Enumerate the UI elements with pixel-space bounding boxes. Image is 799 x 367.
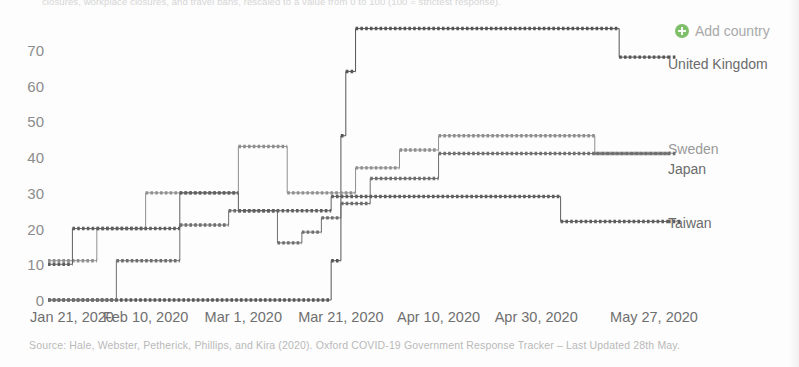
y-axis-tick-label: 70: [27, 43, 44, 58]
y-axis-tick-label: 0: [36, 293, 44, 308]
x-axis: Jan 21, 2020Feb 10, 2020Mar 1, 2020Mar 2…: [0, 309, 799, 333]
legend-label: United Kingdom: [668, 57, 768, 71]
legend-item-japan[interactable]: Japan: [668, 162, 706, 176]
line-chart-svg: [48, 14, 668, 306]
legend-item-united-kingdom[interactable]: United Kingdom: [668, 57, 768, 71]
add-country-button[interactable]: Add country: [675, 24, 770, 38]
series-line: [48, 154, 668, 300]
chart-screenshot: closures, workplace closures, and travel…: [0, 0, 799, 367]
add-country-label: Add country: [695, 24, 770, 38]
y-axis-tick-label: 60: [27, 78, 44, 93]
x-axis-tick-label: Feb 10, 2020: [103, 309, 188, 325]
legend-label: Japan: [668, 162, 706, 176]
x-axis-tick-label: Mar 1, 2020: [205, 309, 282, 325]
plot-area: [48, 14, 668, 306]
series-japan: [48, 154, 668, 300]
x-axis-tick-label: Apr 30, 2020: [495, 309, 578, 325]
x-axis-tick-label: May 27, 2020: [610, 309, 698, 325]
y-axis-tick-label: 20: [27, 221, 44, 236]
x-axis-tick-label: Jan 21, 2020: [30, 309, 114, 325]
y-axis-tick-label: 10: [27, 257, 44, 272]
y-axis-tick-label: 40: [27, 150, 44, 165]
y-axis-tick-label: 30: [27, 185, 44, 200]
chart-subtitle-text: closures, workplace closures, and travel…: [42, 0, 742, 7]
y-axis-tick-label: 50: [27, 114, 44, 129]
legend: Add country United KingdomSwedenJapanTai…: [668, 24, 799, 254]
legend-item-sweden[interactable]: Sweden: [668, 142, 719, 156]
legend-item-taiwan[interactable]: Taiwan: [668, 216, 712, 230]
x-axis-tick-label: Apr 10, 2020: [397, 309, 480, 325]
source-citation: Source: Hale, Webster, Petherick, Philli…: [29, 339, 680, 351]
legend-label: Taiwan: [668, 216, 712, 230]
legend-label: Sweden: [668, 142, 719, 156]
plus-circle-icon: [675, 24, 689, 38]
x-axis-tick-label: Mar 21, 2020: [298, 309, 383, 325]
